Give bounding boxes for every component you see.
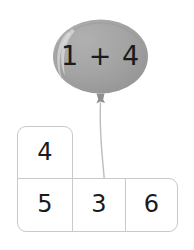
choice-cell-bottom-6[interactable]: 6 bbox=[125, 178, 178, 232]
choice-value: 5 bbox=[37, 192, 52, 216]
choice-cell-bottom-5[interactable]: 5 bbox=[17, 178, 73, 232]
choice-cell-bottom-3[interactable]: 3 bbox=[72, 178, 126, 232]
choice-value: 3 bbox=[91, 192, 106, 216]
worksheet-canvas: 1 + 4 4 5 3 6 bbox=[0, 0, 194, 250]
number-choice-grid: 4 5 3 6 bbox=[0, 0, 194, 250]
choice-value: 4 bbox=[37, 140, 52, 164]
choice-cell-top-4[interactable]: 4 bbox=[17, 126, 73, 179]
choice-value: 6 bbox=[144, 192, 159, 216]
